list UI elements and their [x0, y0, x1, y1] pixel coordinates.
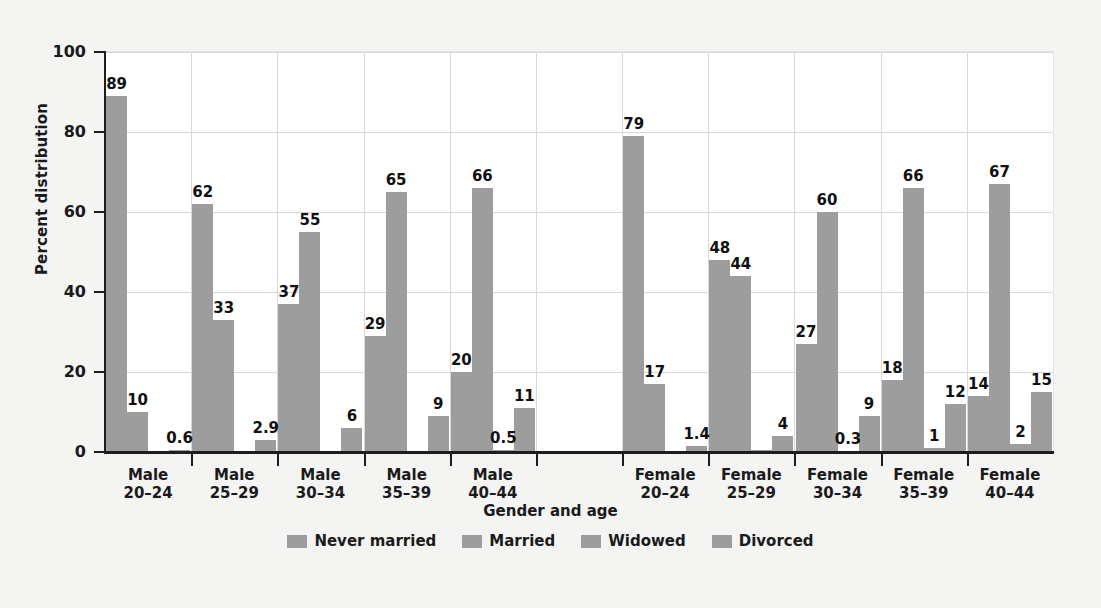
- bar-value-label: 44: [719, 257, 763, 272]
- bar: [882, 380, 903, 452]
- bar: [968, 396, 989, 452]
- bar-value-label: 18: [870, 361, 914, 376]
- bar-value-label: 4: [761, 417, 805, 432]
- bar-value-label: 15: [1019, 373, 1063, 388]
- bar-value-label: 27: [784, 325, 828, 340]
- legend-item[interactable]: Never married: [287, 532, 436, 550]
- y-tick-label-wrap: 0: [40, 444, 86, 460]
- bar-value-label: 79: [612, 117, 656, 132]
- x-tick-mark: [881, 454, 883, 466]
- legend-swatch-icon: [462, 535, 482, 548]
- x-axis-title: Gender and age: [0, 502, 1101, 520]
- x-tick-mark: [708, 454, 710, 466]
- y-tick-label-wrap: 80: [40, 124, 86, 140]
- bar-value-label: 1.4: [675, 427, 719, 442]
- x-tick-mark: [536, 454, 538, 466]
- bar-value-label: 10: [116, 393, 160, 408]
- bar-value-label: 62: [181, 185, 225, 200]
- bar: [989, 184, 1010, 452]
- y-tick-label-wrap: 60: [40, 204, 86, 220]
- bar: [903, 188, 924, 452]
- bar-value-label: 55: [288, 213, 332, 228]
- y-tick-label: 80: [40, 124, 86, 140]
- gridline-horizontal: [105, 132, 1053, 133]
- y-tick-label-wrap: 40: [40, 284, 86, 300]
- bar-value-label: 9: [416, 397, 460, 412]
- legend-item[interactable]: Married: [462, 532, 555, 550]
- x-tick-mark: [622, 454, 624, 466]
- x-tick-mark: [191, 454, 193, 466]
- bar-value-label: 0.5: [481, 431, 525, 446]
- y-tick-mark: [94, 291, 105, 293]
- bar-chart-figure: Percent distribution 020406080100 89100.…: [0, 0, 1101, 608]
- x-axis-spine: [104, 451, 1054, 454]
- bar-value-label: 66: [460, 169, 504, 184]
- bar-value-label: 89: [95, 77, 139, 92]
- y-tick-label: 20: [40, 364, 86, 380]
- y-axis-title: Percent distribution: [33, 59, 51, 319]
- bar: [945, 404, 966, 452]
- legend-item[interactable]: Divorced: [712, 532, 814, 550]
- y-tick-label: 40: [40, 284, 86, 300]
- y-tick-mark: [94, 131, 105, 133]
- bar-value-label: 6: [330, 409, 374, 424]
- bar-value-label: 17: [633, 365, 677, 380]
- legend-item[interactable]: Widowed: [581, 532, 686, 550]
- x-tick-mark: [794, 454, 796, 466]
- bar-value-label: 20: [439, 353, 483, 368]
- bar: [623, 136, 644, 452]
- x-category-label: Female40–44: [950, 466, 1070, 503]
- bar: [365, 336, 386, 452]
- bar-value-label: 2.9: [244, 421, 288, 436]
- bar-value-label: 37: [267, 285, 311, 300]
- bar-value-label: 11: [502, 389, 546, 404]
- bar: [341, 428, 362, 452]
- bar-value-label: 67: [977, 165, 1021, 180]
- y-tick-mark: [94, 51, 105, 53]
- bar: [192, 204, 213, 452]
- bar-value-label: 65: [374, 173, 418, 188]
- bar-value-label: 9: [847, 397, 891, 412]
- bar: [428, 416, 449, 452]
- gridline-horizontal: [105, 52, 1053, 53]
- bar-value-label: 1: [912, 429, 956, 444]
- x-tick-mark: [450, 454, 452, 466]
- category-label-gender: Male: [433, 466, 553, 484]
- bar: [472, 188, 493, 452]
- bar-value-label: 60: [805, 193, 849, 208]
- y-tick-mark: [94, 211, 105, 213]
- bar: [730, 276, 751, 452]
- legend-label: Widowed: [608, 532, 686, 550]
- bar: [709, 260, 730, 452]
- x-category-label: Male40–44: [433, 466, 553, 503]
- bar: [1031, 392, 1052, 452]
- x-tick-mark: [967, 454, 969, 466]
- bar-value-label: 33: [202, 301, 246, 316]
- y-axis-spine: [104, 51, 106, 453]
- bar-value-label: 48: [698, 241, 742, 256]
- legend-label: Married: [489, 532, 555, 550]
- bar-value-label: 66: [891, 169, 935, 184]
- category-label-age: 40–44: [950, 484, 1070, 502]
- bar: [213, 320, 234, 452]
- bar: [644, 384, 665, 452]
- y-tick-label: 0: [40, 444, 86, 460]
- legend-swatch-icon: [712, 535, 732, 548]
- bar-value-label: 29: [353, 317, 397, 332]
- bar-value-label: 2: [998, 425, 1042, 440]
- legend-swatch-icon: [287, 535, 307, 548]
- bar: [451, 372, 472, 452]
- legend-label: Never married: [314, 532, 436, 550]
- bar-value-label: 0.3: [826, 432, 870, 447]
- category-label-age: 40–44: [433, 484, 553, 502]
- plot-area: [105, 52, 1053, 452]
- y-tick-label-wrap: 100: [40, 44, 86, 60]
- bar-value-label: 0.6: [158, 431, 202, 446]
- bar: [299, 232, 320, 452]
- bar-value-label: 14: [956, 377, 1000, 392]
- x-tick-mark: [364, 454, 366, 466]
- chart-legend: Never marriedMarriedWidowedDivorced: [0, 532, 1101, 550]
- bar: [127, 412, 148, 452]
- legend-label: Divorced: [739, 532, 814, 550]
- y-tick-label-wrap: 20: [40, 364, 86, 380]
